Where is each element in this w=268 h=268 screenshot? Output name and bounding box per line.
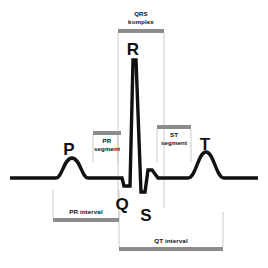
qrs-komplex-label-line2: komplex [128,18,154,26]
qt-interval-label-line1: QT interval [154,238,187,245]
r-wave-label: R [127,41,139,59]
ecg-trace [10,60,258,192]
st-segment-bar [157,125,191,129]
qrs-komplex-bar [118,29,164,33]
pr-segment-label-line1: PR [94,137,120,145]
q-wave-label: Q [115,196,128,214]
qt-interval-bar [119,247,223,251]
ecg-diagram: QRSkomplexPRsegmentSTsegmentPR intervalQ… [0,0,268,268]
t-wave-label: T [200,136,210,154]
qrs-komplex-label: QRSkomplex [128,10,154,27]
pr-interval-label: PR interval [69,209,102,216]
pr-interval-label-line1: PR interval [69,209,102,216]
p-wave-label: P [63,141,74,159]
pr-segment-bar [93,131,121,135]
pr-segment-label: PRsegment [94,137,120,154]
pr-segment-label-line2: segment [94,145,120,153]
st-segment-label-line1: ST [161,131,187,139]
qrs-komplex-label-line1: QRS [128,10,154,18]
s-wave-label: S [140,207,151,225]
pr-interval-bar [53,218,119,222]
st-segment-label: STsegment [161,131,187,148]
st-segment-label-line2: segment [161,139,187,147]
qt-interval-label: QT interval [154,238,187,245]
